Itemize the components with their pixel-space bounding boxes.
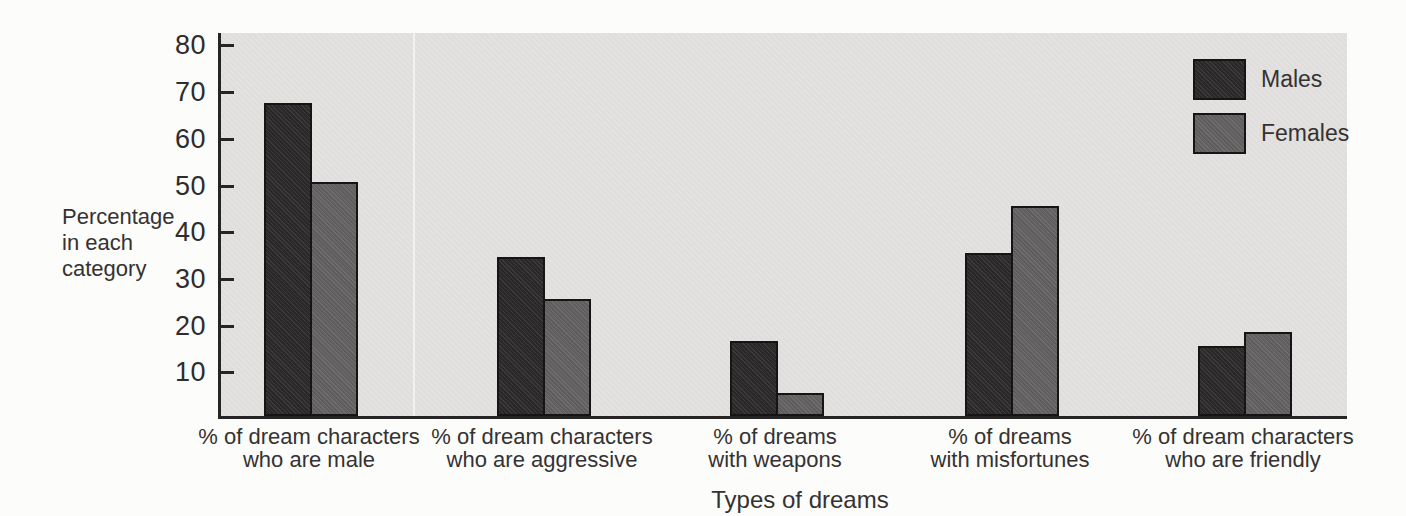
y-tick xyxy=(221,231,234,234)
legend-item-males: Males xyxy=(1193,59,1349,100)
bar-group xyxy=(264,103,358,416)
bar-females xyxy=(543,299,591,416)
y-tick xyxy=(221,91,234,94)
bar-females xyxy=(310,182,358,416)
males-swatch xyxy=(1193,59,1246,100)
figure-page: { "page": { "background": "#fcfcfa", "pl… xyxy=(0,0,1406,516)
bar-group xyxy=(1198,332,1292,416)
y-tick-label: 50 xyxy=(118,173,206,199)
legend-label-males: Males xyxy=(1261,66,1322,93)
y-tick-label: 20 xyxy=(118,313,206,339)
y-tick-label: 80 xyxy=(118,32,206,58)
y-tick xyxy=(221,371,234,374)
bar-group xyxy=(965,206,1059,416)
bar-males xyxy=(965,253,1013,416)
bar-females xyxy=(1011,206,1059,416)
x-axis-title: Types of dreams xyxy=(650,486,950,514)
y-tick xyxy=(221,325,234,328)
legend: Males Females xyxy=(1193,59,1349,154)
y-tick-label: 30 xyxy=(118,266,206,292)
legend-label-females: Females xyxy=(1261,120,1349,147)
bar-group xyxy=(497,257,591,416)
bar-group xyxy=(730,341,824,416)
y-tick xyxy=(221,278,234,281)
y-tick xyxy=(221,138,234,141)
y-tick-label: 10 xyxy=(118,359,206,385)
bar-females xyxy=(1244,332,1292,416)
plot-area xyxy=(218,33,1347,419)
bar-males xyxy=(730,341,778,416)
y-tick xyxy=(221,185,234,188)
panel-separator-line xyxy=(413,33,415,416)
bar-males xyxy=(1198,346,1246,416)
y-tick-label: 60 xyxy=(118,126,206,152)
bar-males xyxy=(497,257,545,416)
y-tick-label: 70 xyxy=(118,79,206,105)
category-label: % of dream characters who are friendly xyxy=(1083,425,1403,471)
bar-females xyxy=(776,393,824,416)
legend-item-females: Females xyxy=(1193,113,1349,154)
females-swatch xyxy=(1193,113,1246,154)
y-tick xyxy=(221,44,234,47)
bar-males xyxy=(264,103,312,416)
y-tick-label: 40 xyxy=(118,219,206,245)
